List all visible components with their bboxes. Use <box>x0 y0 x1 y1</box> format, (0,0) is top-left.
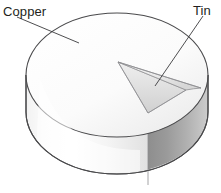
cylinder-diagram-svg: Copper Tin <box>0 0 221 193</box>
tin-label: Tin <box>193 3 211 18</box>
bronze-cylinder-figure: Copper Tin <box>0 0 221 193</box>
copper-label: Copper <box>3 4 47 19</box>
